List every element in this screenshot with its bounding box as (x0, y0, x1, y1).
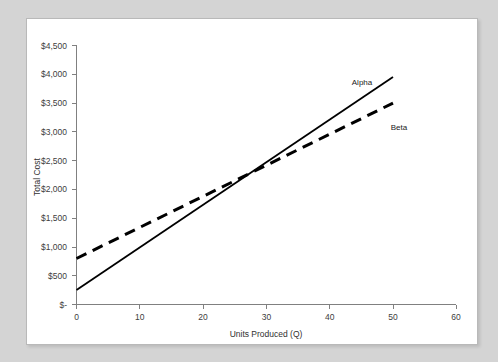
y-tick-label: $1,500 (41, 213, 67, 223)
y-tick-label: $3,500 (41, 98, 67, 108)
x-tick-label: 40 (325, 312, 335, 322)
x-tick-label: 30 (262, 312, 272, 322)
y-tick-label: $4,000 (41, 69, 67, 79)
x-tick-label: 0 (74, 312, 79, 322)
series-line-beta (77, 103, 394, 258)
x-axis-ticks (77, 305, 457, 310)
x-tick-label: 50 (388, 312, 398, 322)
y-tick-label: $500 (48, 271, 67, 281)
y-axis-ticks (72, 46, 77, 305)
y-axis-title: Total Cost (32, 157, 42, 195)
cost-chart: $4,500 $4,000 $3,500 $3,000 $2,500 $2,00… (27, 19, 479, 346)
y-tick-label: $2,000 (41, 184, 67, 194)
x-tick-label: 60 (451, 312, 461, 322)
series-label-alpha: Alpha (352, 78, 373, 87)
series-line-alpha (77, 77, 394, 290)
x-axis-title: Units Produced (Q) (230, 329, 303, 339)
y-tick-label: $1,000 (41, 242, 67, 252)
y-tick-label: $3,000 (41, 127, 67, 137)
x-tick-label: 10 (135, 312, 145, 322)
y-tick-label: $4,500 (41, 41, 67, 51)
y-tick-label: $2,500 (41, 156, 67, 166)
y-tick-label: $- (59, 300, 67, 310)
x-tick-label: 20 (198, 312, 208, 322)
chart-svg: $4,500 $4,000 $3,500 $3,000 $2,500 $2,00… (27, 19, 479, 346)
series-label-beta: Beta (391, 123, 408, 132)
page-background: $4,500 $4,000 $3,500 $3,000 $2,500 $2,00… (0, 0, 498, 362)
chart-card: $4,500 $4,000 $3,500 $3,000 $2,500 $2,00… (26, 18, 478, 345)
